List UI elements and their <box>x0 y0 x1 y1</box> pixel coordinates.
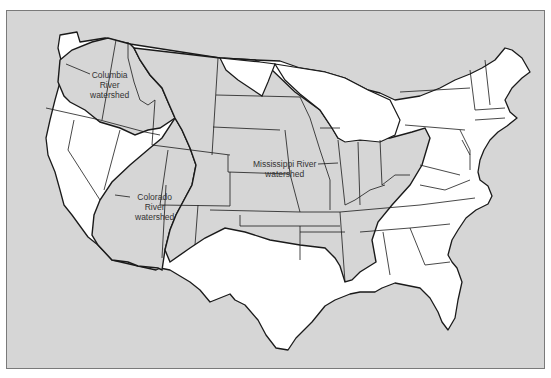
columbia-label: Columbia River watershed <box>90 70 129 100</box>
mississippi-label-line1: Mississippi River <box>253 159 316 169</box>
columbia-label-line2: River <box>90 80 129 90</box>
columbia-label-line3: watershed <box>90 90 129 100</box>
mississippi-label-line2: watershed <box>253 169 316 179</box>
colorado-label-line2: River <box>135 202 174 212</box>
colorado-label-line3: watershed <box>135 212 174 222</box>
us-watershed-map <box>0 0 551 378</box>
columbia-label-line1: Columbia <box>90 70 129 80</box>
colorado-label: Colorado River watershed <box>135 192 174 222</box>
mississippi-label: Mississippi River watershed <box>253 159 316 179</box>
colorado-label-line1: Colorado <box>135 192 174 202</box>
